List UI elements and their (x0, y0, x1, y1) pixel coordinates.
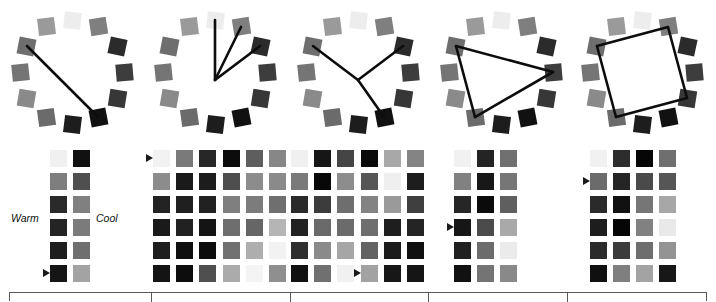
swatch-cell (613, 219, 630, 236)
swatch-cell (314, 196, 331, 213)
panel-5-tetrad (572, 0, 715, 301)
swatch-cell (291, 150, 308, 167)
swatch-cell (246, 219, 263, 236)
swatch-cell (314, 242, 331, 259)
table-column-divider (290, 293, 291, 302)
harmony-link-lines (286, 0, 429, 150)
swatch-cell (384, 196, 401, 213)
swatch-cell (269, 242, 286, 259)
swatch-cell (454, 242, 471, 259)
swatch-cell (269, 265, 286, 282)
swatch-cell (361, 150, 378, 167)
swatch-cell (291, 173, 308, 190)
swatch-cell (314, 265, 331, 282)
swatch-cell (153, 196, 170, 213)
harmony-dial (572, 0, 715, 150)
swatch-cell (73, 150, 90, 167)
swatch-cell (590, 242, 607, 259)
swatch-cell (269, 173, 286, 190)
swatch-cell (659, 242, 676, 259)
swatch-cell (361, 219, 378, 236)
swatch-cell (291, 196, 308, 213)
swatch-cell (636, 196, 653, 213)
swatch-matrix-group (153, 150, 222, 288)
harmony-dial (0, 0, 143, 150)
swatch-cell (590, 219, 607, 236)
swatch-cell (659, 196, 676, 213)
bottom-table-frame (9, 292, 707, 301)
swatch-cell (590, 150, 607, 167)
swatch-cell (176, 196, 193, 213)
swatch-cell (636, 242, 653, 259)
harmony-link-line (215, 27, 241, 80)
panel-1-complementary (0, 0, 143, 301)
swatch-cell (454, 173, 471, 190)
table-column-divider (428, 293, 429, 302)
swatch-cell (384, 173, 401, 190)
swatch-cell (454, 150, 471, 167)
warm-label: Warm (11, 212, 39, 224)
swatch-cell (291, 219, 308, 236)
swatch-cell (314, 150, 331, 167)
swatch-matrix-group (361, 150, 430, 288)
swatch-cell (176, 265, 193, 282)
table-column-divider (151, 293, 152, 302)
swatch-cell (314, 173, 331, 190)
swatch-cell (50, 150, 67, 167)
swatch-cell (73, 265, 90, 282)
swatch-cell (73, 173, 90, 190)
swatch-cell (590, 265, 607, 282)
swatch-cell (384, 265, 401, 282)
swatch-cell (73, 219, 90, 236)
swatch-matrix (572, 150, 715, 290)
row-selection-marker (583, 177, 590, 185)
swatch-cell (337, 173, 354, 190)
swatch-cell (176, 242, 193, 259)
swatch-cell (176, 219, 193, 236)
swatch-matrix-group (454, 150, 523, 288)
swatch-cell (223, 242, 240, 259)
swatch-cell (407, 219, 424, 236)
swatch-cell (176, 150, 193, 167)
swatch-cell (500, 219, 517, 236)
swatch-cell (153, 173, 170, 190)
row-selection-marker (354, 269, 361, 277)
swatch-matrix (429, 150, 572, 290)
swatch-cell (246, 173, 263, 190)
swatch-cell (223, 150, 240, 167)
swatch-cell (590, 173, 607, 190)
swatch-cell (407, 265, 424, 282)
harmony-link-line (456, 46, 475, 117)
harmony-link-line (358, 46, 403, 80)
swatch-matrix (286, 150, 429, 290)
table-column-divider (567, 293, 568, 302)
harmony-dial (286, 0, 429, 150)
swatch-cell (199, 265, 216, 282)
swatch-cell (291, 265, 308, 282)
panel-3-triad-y (286, 0, 429, 301)
swatch-cell (500, 173, 517, 190)
harmony-link-lines (143, 0, 286, 150)
swatch-cell (384, 219, 401, 236)
swatch-cell (176, 173, 193, 190)
swatch-cell (361, 173, 378, 190)
harmony-link-line (668, 27, 687, 98)
swatch-matrix-group (291, 150, 360, 288)
swatch-cell (153, 150, 170, 167)
swatch-cell (50, 196, 67, 213)
swatch-cell (477, 242, 494, 259)
harmony-link-line (597, 27, 668, 46)
swatch-cell (291, 242, 308, 259)
row-selection-marker (447, 223, 454, 231)
harmony-link-line (313, 46, 358, 80)
row-selection-marker (146, 154, 153, 162)
harmony-link-line (475, 72, 553, 117)
swatch-cell (454, 196, 471, 213)
swatch-cell (477, 173, 494, 190)
swatch-cell (454, 265, 471, 282)
swatch-cell (500, 196, 517, 213)
swatch-cell (361, 265, 378, 282)
row-selection-marker (43, 269, 50, 277)
harmony-dial (429, 0, 572, 150)
swatch-cell (199, 173, 216, 190)
